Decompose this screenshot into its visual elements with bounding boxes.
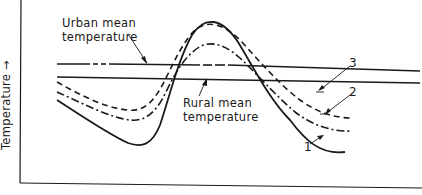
temperature-diagram: Temperature → Urban mean temperature Rur… — [0, 0, 422, 195]
y-axis-label: Temperature → — [0, 60, 13, 151]
arrow-icon — [141, 56, 147, 64]
curve-2-label: 2 — [349, 85, 357, 99]
rural-label-line1: Rural mean — [183, 96, 252, 110]
arrow-icon — [317, 135, 324, 140]
x-axis — [20, 183, 422, 188]
rural-label-line2: temperature — [183, 110, 259, 124]
urban-label-line2: temperature — [62, 30, 138, 44]
urban-mean-annotation: Urban mean temperature — [62, 16, 147, 64]
urban-label-line1: Urban mean — [62, 16, 136, 30]
arrow-icon — [318, 85, 325, 91]
rural-mean-annotation: Rural mean temperature — [183, 78, 259, 124]
curve-labels: 3 2 1 — [304, 56, 357, 154]
urban-mean-line — [57, 64, 420, 71]
y-axis — [20, 0, 21, 183]
rural-mean-line — [57, 77, 420, 83]
curve-3-label: 3 — [349, 56, 357, 70]
curve-1-label: 1 — [304, 140, 312, 154]
